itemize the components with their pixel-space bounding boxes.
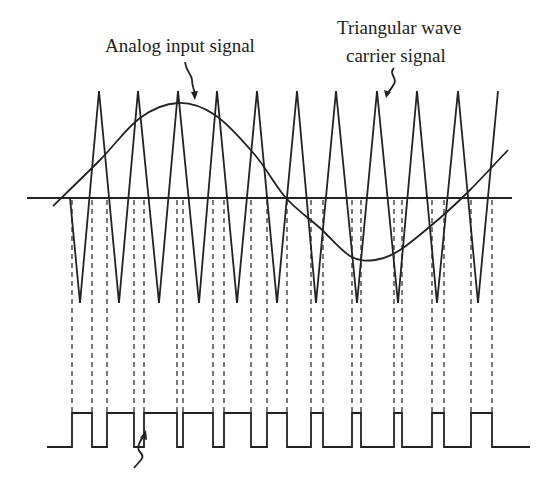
carrier-pointer-arrow-icon [384,68,395,98]
analog-pointer-arrow-icon [185,62,198,100]
carrier-label-line1: Triangular wave [337,17,461,38]
pulse-pointer-arrow-icon [134,430,147,468]
analog-signal-label: Analog input signal [105,35,255,56]
projection-dashed-lines [72,200,492,413]
pwm-output-pulse-train [47,413,530,447]
pwm-diagram: Analog input signal Triangular wave carr… [0,0,550,478]
carrier-label-line2: carrier signal [346,45,446,66]
analog-input-sine-wave [53,103,508,261]
